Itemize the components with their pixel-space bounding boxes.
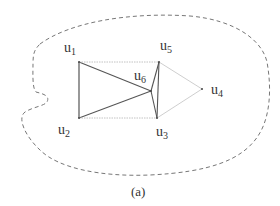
vertex-label-base: u [58,122,65,137]
vertex-label-base: u [156,124,163,139]
vertex-label-subscript: 3 [163,130,168,141]
vertex-label-base: u [64,40,71,55]
vertex-u4 [201,88,203,90]
vertex-u2 [78,117,80,119]
vertex-label-base: u [160,38,167,53]
labels-group: u1u2u3u4u5u6 [58,38,223,141]
vertex-label-u1: u1 [64,40,76,57]
vertex-label-u5: u5 [160,38,172,55]
vertex-label-subscript: 4 [218,88,223,99]
figure-caption: (a) [131,184,145,199]
vertex-u6 [150,90,152,92]
vertex-label-subscript: 6 [141,74,146,85]
edge-u5-u3 [157,62,159,118]
vertex-u5 [158,61,160,63]
vertex-u3 [156,117,158,119]
vertex-label-u3: u3 [156,124,168,141]
edge-u2-u6 [79,91,151,118]
vertex-label-u6: u6 [134,68,146,85]
vertex-label-subscript: 2 [65,128,70,139]
vertex-label-subscript: 5 [167,44,172,55]
vertex-label-u2: u2 [58,122,70,139]
vertex-label-base: u [211,82,218,97]
edge-u3-u4 [157,89,202,118]
graph-diagram: u1u2u3u4u5u6 (a) [0,0,280,206]
vertex-label-subscript: 1 [71,46,76,57]
edge-u6-u3 [151,91,157,118]
region-boundary [22,15,270,175]
vertex-u1 [78,61,80,63]
vertex-label-base: u [134,68,141,83]
vertex-label-u4: u4 [211,82,223,99]
edge-u5-u4 [159,62,202,89]
